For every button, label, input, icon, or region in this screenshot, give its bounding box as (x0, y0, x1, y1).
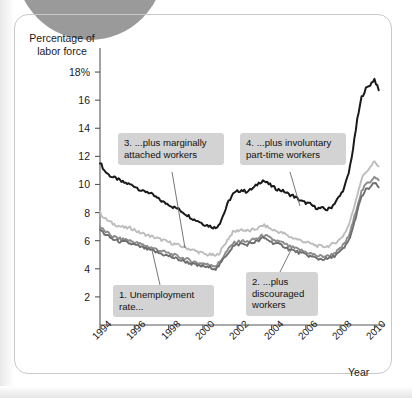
x-axis-title: Year (348, 366, 369, 378)
chart-figure: Percentage of labor force Year 246810121… (0, 0, 412, 398)
callout-1-line1: 1. Unemployment (119, 289, 208, 301)
y-axis-tick-label: 8 (46, 208, 90, 218)
annotation-callout-discouraged-workers: 2. ...plus discouraged workers (246, 272, 318, 316)
leader-line-2 (290, 172, 300, 206)
leader-line-1 (172, 172, 185, 248)
y-axis-tick-label: 16 (46, 95, 90, 105)
chart-series-lines (100, 79, 379, 270)
y-axis-title: Percentage of labor force (20, 32, 104, 57)
callout-3-line1: 3. ...plus marginally (124, 137, 218, 149)
y-axis-tick-label: 4 (46, 264, 90, 274)
chart-plot-area (0, 0, 412, 398)
callout-3-line2: attached workers (124, 149, 218, 161)
leader-line-4 (280, 248, 292, 272)
y-axis-tick-label: 6 (46, 236, 90, 246)
y-axis-tick-label: 14 (46, 123, 90, 133)
y-axis-title-line1: Percentage of (20, 32, 104, 45)
leader-line-3 (152, 250, 160, 285)
y-axis-tick-label: 18% (46, 67, 90, 77)
callout-2-line3: workers (252, 299, 312, 311)
callout-4-line2: part-time workers (246, 149, 340, 161)
y-axis-title-line2: labor force (20, 45, 104, 58)
y-axis-tick-label: 10 (46, 179, 90, 189)
callout-2-line2: discouraged (252, 288, 312, 300)
page-root: Percentage of labor force Year 246810121… (0, 0, 412, 398)
y-axis-tick-label: 2 (46, 292, 90, 302)
annotation-callout-marginally-attached: 3. ...plus marginally attached workers (118, 133, 224, 165)
callout-1-line2: rate... (119, 301, 208, 313)
callout-4-line1: 4. ...plus involuntary (246, 137, 340, 149)
annotation-callout-involuntary-part-time: 4. ...plus involuntary part-time workers (240, 133, 346, 165)
series-line-4 (100, 183, 379, 270)
callout-2-line1: 2. ...plus (252, 276, 312, 288)
annotation-callout-unemployment-rate: 1. Unemployment rate... (113, 285, 214, 317)
y-axis-tick-label: 12 (46, 151, 90, 161)
